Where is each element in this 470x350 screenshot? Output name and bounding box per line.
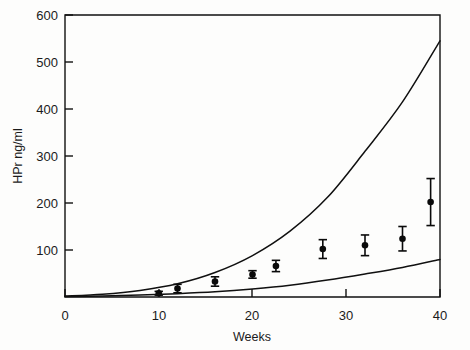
y-tick-label-600: 600 xyxy=(36,8,58,23)
point-marker xyxy=(174,285,181,292)
chart-canvas: 600 500 400 300 200 100 0 10 20 30 40 We… xyxy=(0,0,470,350)
chart-figure: 600 500 400 300 200 100 0 10 20 30 40 We… xyxy=(0,0,470,350)
x-tick-label-40: 40 xyxy=(433,308,447,323)
y-axis-title: HPr ng/ml xyxy=(11,128,25,184)
point-marker xyxy=(273,263,280,270)
data-point-0 xyxy=(155,290,163,297)
data-point-6 xyxy=(361,235,369,256)
data-series-layer xyxy=(65,41,440,297)
point-marker xyxy=(427,199,434,206)
data-point-4 xyxy=(272,260,280,271)
point-marker xyxy=(320,246,327,253)
data-point-7 xyxy=(398,227,406,251)
y-tick-label-500: 500 xyxy=(36,55,58,70)
data-point-1 xyxy=(173,284,181,292)
y-tick-label-300: 300 xyxy=(36,149,58,164)
point-marker xyxy=(155,290,162,297)
point-marker xyxy=(212,278,219,285)
series-1 xyxy=(65,41,440,296)
x-tick-label-30: 30 xyxy=(339,308,353,323)
data-point-5 xyxy=(319,240,327,259)
x-axis-tick-labels: 0 10 20 30 40 xyxy=(61,308,447,323)
plot-frame xyxy=(65,15,440,297)
point-marker xyxy=(362,242,369,249)
y-tick-label-200: 200 xyxy=(36,196,58,211)
x-tick-label-20: 20 xyxy=(245,308,259,323)
x-tick-label-0: 0 xyxy=(61,308,68,323)
data-point-2 xyxy=(211,277,219,286)
x-tick-label-10: 10 xyxy=(152,308,166,323)
y-axis-tick-labels: 600 500 400 300 200 100 xyxy=(36,8,58,258)
data-point-8 xyxy=(426,179,434,226)
y-tick-label-100: 100 xyxy=(36,243,58,258)
y-axis-ticks xyxy=(65,15,73,250)
x-axis-title: Weeks xyxy=(233,330,271,344)
y-tick-label-400: 400 xyxy=(36,102,58,117)
point-marker xyxy=(249,271,256,278)
data-point-3 xyxy=(248,271,256,279)
model-curve xyxy=(65,41,440,296)
point-marker xyxy=(399,235,406,242)
